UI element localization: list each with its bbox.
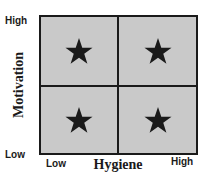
star-icon [144, 38, 172, 65]
star-icon [65, 107, 93, 134]
x-axis-title: Hygiene [94, 158, 143, 172]
x-axis-low-label: Low [46, 159, 66, 169]
quadrant-low-motivation-low-hygiene [41, 87, 119, 153]
y-axis-high-label: High [5, 16, 27, 26]
quadrant-high-motivation-low-hygiene [41, 17, 119, 87]
y-axis-title: Motivation [12, 52, 26, 118]
quadrant-high-motivation-high-hygiene [119, 17, 196, 87]
star-icon [65, 38, 93, 65]
quadrant-matrix [39, 15, 198, 155]
quadrant-low-motivation-high-hygiene [119, 87, 196, 153]
y-axis-low-label: Low [5, 150, 25, 160]
star-icon [144, 107, 172, 134]
x-axis-high-label: High [171, 157, 193, 167]
